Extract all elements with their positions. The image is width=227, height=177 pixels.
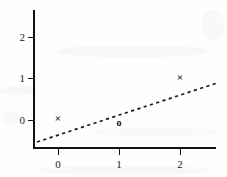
x-axis-tick-1 — [119, 149, 120, 155]
y-axis-tick-2 — [28, 37, 34, 38]
x-axis-label-1: 1 — [111, 159, 127, 170]
y-axis-line — [33, 10, 35, 149]
y-axis-label-0: 0 — [11, 115, 25, 126]
y-axis-label-2: 2 — [11, 32, 25, 43]
data-point-x-0-0: × — [52, 113, 64, 125]
scatter-plot-figure: 2 1 0 0 1 2 × o × — [0, 0, 227, 177]
background-artifact — [202, 10, 224, 40]
x-axis-tick-0 — [58, 149, 59, 155]
x-axis-label-2: 2 — [172, 159, 188, 170]
background-artifact — [0, 86, 36, 95]
x-axis-tick-2 — [180, 149, 181, 155]
y-axis-tick-0 — [28, 120, 34, 121]
y-axis-label-1: 1 — [11, 73, 25, 84]
x-axis-label-0: 0 — [50, 159, 66, 170]
x-axis-line — [33, 147, 216, 149]
data-point-x-2-1: × — [174, 72, 186, 84]
y-axis-tick-1 — [28, 78, 34, 79]
data-point-o-1-0: o — [113, 118, 125, 130]
background-artifact — [58, 46, 208, 57]
